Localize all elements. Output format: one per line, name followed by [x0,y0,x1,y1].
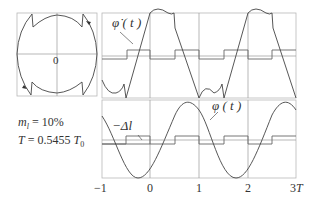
x-tick-2: 2 [245,181,251,196]
phi-label: φ ( t ) [212,98,241,114]
delta-l-label: −Δl [112,118,132,134]
phidot-label: φ̇ ( t ) [112,15,141,31]
x-tick-0: 0 [147,181,153,196]
angle-plot [102,100,296,178]
x-tick--1: −1 [94,181,107,196]
step-signal [102,50,296,59]
period-annotation: T = 0.5455 T0 [18,133,84,149]
ml-annotation: ml = 10% [18,115,64,131]
origin-label: 0 [53,54,59,66]
figure-canvas [0,0,314,203]
x-tick-3: 3T [290,181,303,196]
x-tick-1: 1 [196,181,202,196]
